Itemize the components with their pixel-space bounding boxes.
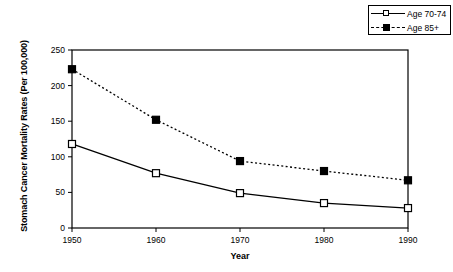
y-tick-label: 200 xyxy=(51,81,65,91)
data-series-group xyxy=(69,66,412,212)
chart-legend: Age 70-74 Age 85+ xyxy=(368,5,451,35)
open-square-marker-icon xyxy=(69,140,76,147)
y-tick-label: 0 xyxy=(60,223,65,233)
open-square-marker-icon xyxy=(237,190,244,197)
legend-label-0: Age 70-74 xyxy=(407,7,446,21)
x-tick-label: 1950 xyxy=(63,235,82,245)
open-square-marker-icon xyxy=(153,170,160,177)
series-age-70-74 xyxy=(69,140,412,211)
legend-entry-age-85-plus: Age 85+ xyxy=(369,21,450,35)
legend-sample-dotted-filled-square xyxy=(369,21,407,35)
filled-square-marker-icon xyxy=(405,177,412,184)
series-line xyxy=(72,144,408,208)
y-tick-label: 150 xyxy=(51,116,65,126)
x-tick-label: 1970 xyxy=(231,235,250,245)
chart-figure: Stomach Cancer Mortality Rates (Per 100,… xyxy=(0,0,453,272)
open-square-marker-icon xyxy=(383,10,389,16)
x-tick-label: 1980 xyxy=(315,235,334,245)
series-age-85 xyxy=(69,66,412,184)
y-tick-label: 250 xyxy=(51,45,65,55)
legend-sample-solid-open-square xyxy=(369,7,407,21)
open-square-marker-icon xyxy=(405,205,412,212)
legend-entry-age-70-74: Age 70-74 xyxy=(369,7,450,21)
x-tick-label: 1960 xyxy=(147,235,166,245)
filled-square-marker-icon xyxy=(321,168,328,175)
y-tick-label: 100 xyxy=(51,152,65,162)
x-axis-ticks: 19501960197019801990 xyxy=(63,228,418,245)
filled-square-marker-icon xyxy=(237,158,244,165)
axis-frame xyxy=(72,50,408,228)
x-tick-label: 1990 xyxy=(399,235,418,245)
y-tick-label: 50 xyxy=(56,187,66,197)
plot-area: 050100150200250 19501960197019801990 xyxy=(0,0,453,272)
filled-square-marker-icon xyxy=(153,116,160,123)
open-square-marker-icon xyxy=(321,200,328,207)
legend-label-1: Age 85+ xyxy=(407,21,439,35)
filled-square-marker-icon xyxy=(69,66,76,73)
filled-square-marker-icon xyxy=(383,24,390,31)
